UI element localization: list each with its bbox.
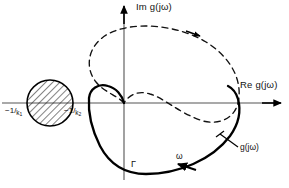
transfer-function-label: g(jω) <box>240 143 259 152</box>
contour-label-gamma: Γ <box>131 160 136 169</box>
frequency-direction-label-omega: ω <box>176 152 183 161</box>
nyquist-diagram: Im g(jω) Re g(jω) −1/k1 −1/k2 Γ ω g(jω) <box>0 0 289 188</box>
critical-point-label-k1: −1/k1 <box>5 107 22 117</box>
k1-subscript: 1 <box>20 111 23 117</box>
imaginary-axis-label: Im g(jω) <box>136 2 172 12</box>
critical-point-label-k2: −1/k2 <box>64 107 81 117</box>
k1-numerator: −1 <box>5 106 14 115</box>
real-axis-label: Re g(jω) <box>240 80 278 90</box>
diagram-canvas <box>0 0 289 188</box>
k2-subscript: 2 <box>79 111 82 117</box>
k2-numerator: −1 <box>64 106 73 115</box>
nyquist-locus-path <box>89 85 240 174</box>
uncertainty-locus-dashed <box>89 26 239 122</box>
